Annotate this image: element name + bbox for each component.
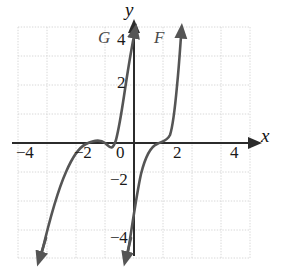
y-tick-label-2: 2: [117, 73, 125, 93]
curve-g-label: G: [98, 28, 110, 48]
x-tick-label-minus-2: −2: [74, 143, 92, 163]
x-axis-label: x: [261, 125, 269, 147]
x-tick-label-4: 4: [230, 143, 238, 163]
graph-figure: y x G F −4 −2 0 2 4 4 2 −2 −4: [0, 0, 287, 279]
x-tick-label-zero: 0: [116, 143, 124, 163]
y-tick-label-minus-2: −2: [110, 170, 128, 190]
x-tick-label-minus-4: −4: [16, 143, 34, 163]
y-axis-label: y: [125, 0, 133, 21]
curve-f-label: F: [154, 28, 164, 48]
y-tick-label-4: 4: [117, 30, 125, 50]
y-tick-label-minus-4: −4: [110, 228, 128, 248]
x-tick-label-2: 2: [173, 143, 181, 163]
coordinate-plane: [0, 0, 287, 279]
